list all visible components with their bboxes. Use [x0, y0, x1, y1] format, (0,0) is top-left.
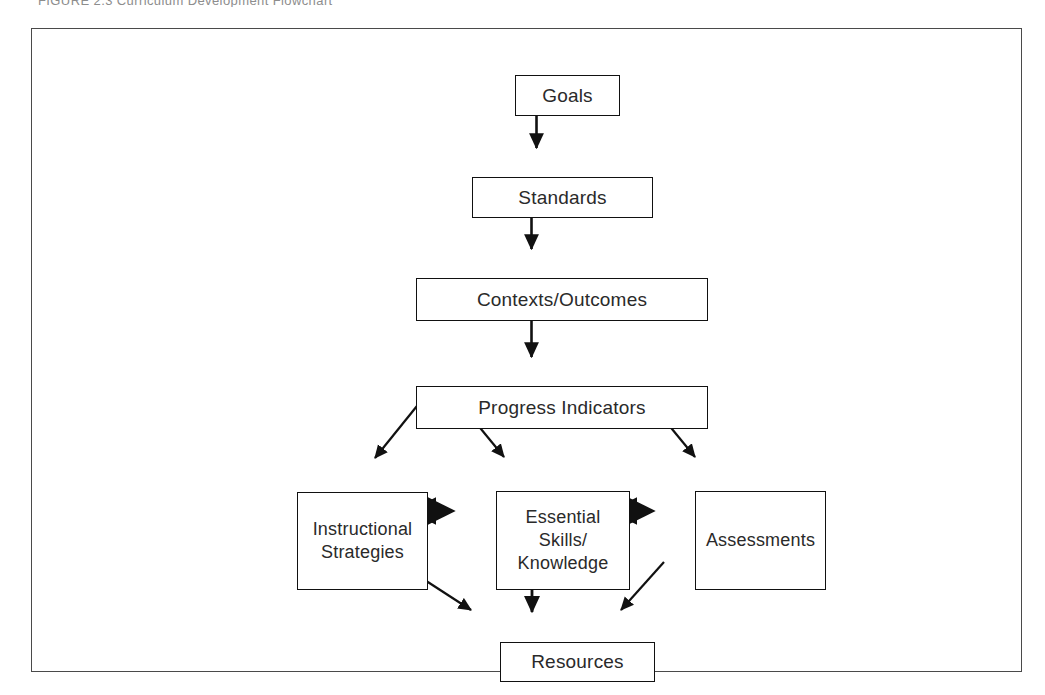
figure-caption: FIGURE 2.3 Curriculum Development Flowch…	[38, 0, 598, 7]
node-standards-label: Standards	[473, 186, 652, 210]
edge-progress-instructional	[375, 401, 421, 458]
diagram-frame: Goals Standards Contexts/Outcomes Progre…	[31, 28, 1022, 672]
node-goals-label: Goals	[516, 84, 619, 108]
node-assessments[interactable]: Assessments	[695, 491, 826, 590]
node-standards[interactable]: Standards	[472, 177, 653, 218]
node-essential-skills-knowledge-label: Essential Skills/ Knowledge	[497, 506, 629, 574]
node-contexts-outcomes-label: Contexts/Outcomes	[417, 288, 707, 312]
node-resources[interactable]: Resources	[500, 642, 655, 682]
node-progress-indicators[interactable]: Progress Indicators	[416, 386, 708, 429]
node-instructional-strategies-label: Instructional Strategies	[298, 518, 427, 563]
node-progress-indicators-label: Progress Indicators	[417, 396, 707, 420]
node-essential-skills-knowledge[interactable]: Essential Skills/ Knowledge	[496, 491, 630, 590]
node-instructional-strategies[interactable]: Instructional Strategies	[297, 492, 428, 590]
node-resources-label: Resources	[501, 650, 654, 674]
figure-root: FIGURE 2.3 Curriculum Development Flowch…	[0, 0, 1045, 695]
node-contexts-outcomes[interactable]: Contexts/Outcomes	[416, 278, 708, 321]
node-goals[interactable]: Goals	[515, 75, 620, 116]
node-assessments-label: Assessments	[696, 529, 825, 552]
